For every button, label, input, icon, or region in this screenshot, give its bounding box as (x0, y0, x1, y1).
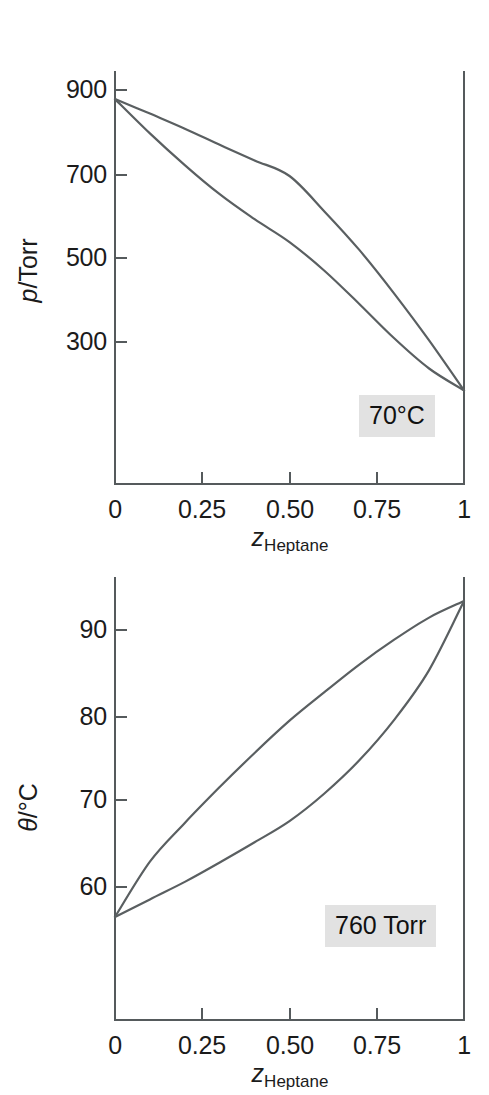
x-tick-label-1: 1 (434, 497, 489, 522)
y-tick-label-90: 90 (45, 617, 107, 642)
y-axis-title: θ/°C (16, 758, 41, 858)
y-axis-title-unit: /°C (14, 783, 42, 818)
x-axis-title: zHeptane (195, 1061, 385, 1086)
x-tick-label-0: 0 (85, 497, 145, 522)
vapour-line-curve (115, 601, 464, 917)
x-tick-label-0-75: 0.75 (332, 1033, 422, 1058)
y-tick-label-70: 70 (45, 787, 107, 812)
x-axis-title-variable: z (252, 1059, 265, 1087)
y-axis-title-variable: p (14, 289, 42, 303)
condition-badge-temperature: 70°C (359, 395, 435, 437)
y-axis-title: p/Torr (16, 216, 41, 326)
condition-badge-pressure: 760 Torr (325, 905, 436, 947)
y-tick-label-500: 500 (45, 245, 107, 270)
y-axis-title-variable: θ (14, 818, 42, 832)
pressure-composition-chart: 900 700 500 300 0 0.25 0.50 0.75 1 p/Tor… (0, 0, 489, 548)
y-tick-label-900: 900 (45, 77, 107, 102)
y-tick-label-300: 300 (45, 329, 107, 354)
x-tick-label-1: 1 (434, 1033, 489, 1058)
y-tick-label-80: 80 (45, 704, 107, 729)
x-tick-label-0: 0 (85, 1033, 145, 1058)
x-tick-label-0-50: 0.50 (245, 497, 335, 522)
temperature-composition-chart: 90 80 70 60 0 0.25 0.50 0.75 1 θ/°C zHep… (0, 547, 489, 1095)
x-tick-label-0-25: 0.25 (157, 497, 247, 522)
x-tick-label-0-50: 0.50 (245, 1033, 335, 1058)
y-tick-label-60: 60 (45, 874, 107, 899)
x-tick-label-0-75: 0.75 (332, 497, 422, 522)
x-tick-label-0-25: 0.25 (157, 1033, 247, 1058)
vapour-line-curve (115, 99, 464, 390)
liquid-line-curve (115, 99, 464, 390)
y-axis-title-unit: /Torr (14, 239, 42, 289)
y-tick-label-700: 700 (45, 162, 107, 187)
liquid-line-curve (115, 601, 464, 917)
x-axis-title-subscript: Heptane (264, 1072, 328, 1091)
